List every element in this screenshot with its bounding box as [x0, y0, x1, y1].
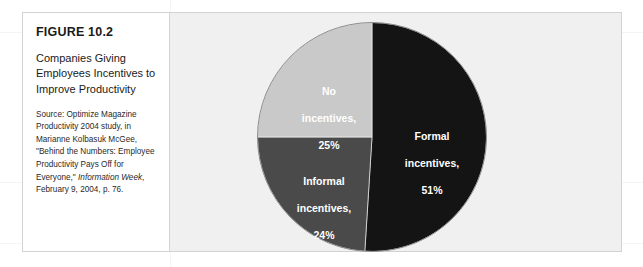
label-line-3: 25% [318, 139, 339, 151]
figure-title: Companies Giving Employees Incentives to… [36, 51, 157, 98]
label-line-1: Formal [414, 130, 449, 142]
pie-slice-label-no-incentives: No incentives, 25% [289, 71, 369, 153]
figure-number: FIGURE 10.2 [36, 26, 157, 40]
source-publication-name: Information Week [78, 173, 142, 182]
label-line-2: incentives, [405, 157, 459, 169]
chart-panel: Formal incentives, 51% Informal incentiv… [170, 13, 621, 251]
label-line-1: No [322, 85, 336, 97]
figure-source-note: Source: Optimize Magazine Productivity 2… [36, 109, 157, 197]
label-line-3: 24% [313, 229, 334, 241]
label-line-2: incentives, [297, 202, 351, 214]
figure-container: FIGURE 10.2 Companies Giving Employees I… [22, 12, 622, 252]
figure-caption-panel: FIGURE 10.2 Companies Giving Employees I… [23, 13, 170, 251]
source-text-prefix: Source: Optimize Magazine Productivity 2… [36, 110, 155, 182]
label-line-2: incentives, [302, 112, 356, 124]
pie-slice-label-formal-incentives: Formal incentives, 51% [384, 116, 480, 198]
label-line-1: Informal [303, 175, 344, 187]
label-line-3: 51% [421, 184, 442, 196]
pie-slice-label-informal-incentives: Informal incentives, 24% [276, 161, 372, 243]
pie-chart: Formal incentives, 51% Informal incentiv… [256, 21, 488, 253]
